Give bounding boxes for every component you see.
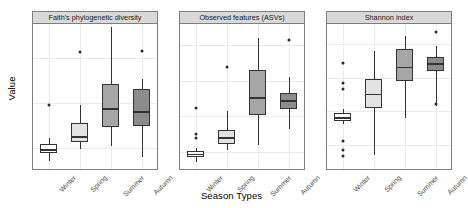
- y-axis-tick-mark: [179, 152, 180, 153]
- x-axis-tick-mark: [49, 169, 50, 170]
- x-axis-tick-mark: [436, 169, 437, 170]
- whisker: [436, 46, 437, 106]
- plot-area: 102030: [32, 24, 158, 170]
- x-axis-tick-mark: [196, 169, 197, 170]
- y-axis-tick-mark: [326, 77, 327, 78]
- facet-strip-label: Faith's phylogenetic diversity: [33, 12, 157, 23]
- facet-strip-faiths-pd: Faith's phylogenetic diversity: [32, 11, 158, 24]
- gridline: [33, 58, 157, 59]
- median-line: [396, 67, 413, 69]
- outlier-point: [194, 137, 197, 140]
- gridline: [180, 116, 304, 117]
- median-line: [40, 149, 57, 151]
- x-axis-tick-mark: [405, 169, 406, 170]
- outlier-point: [341, 81, 344, 84]
- median-line: [71, 136, 88, 138]
- y-axis-tick-mark: [32, 102, 33, 103]
- boxplot-box: [102, 84, 119, 127]
- x-axis-tick-mark: [289, 169, 290, 170]
- y-axis-title: Value: [6, 59, 17, 119]
- outlier-point: [78, 51, 81, 54]
- outlier-point: [434, 31, 437, 34]
- median-line: [187, 154, 204, 156]
- gridline: [327, 44, 451, 45]
- gridline: [180, 45, 304, 46]
- x-axis-tick-mark: [111, 169, 112, 170]
- median-line: [102, 108, 119, 110]
- y-axis-tick-mark: [326, 144, 327, 145]
- outlier-point: [140, 50, 143, 53]
- x-axis-title: Season Types: [0, 190, 463, 201]
- median-line: [427, 63, 444, 65]
- outlier-point: [194, 133, 197, 136]
- y-axis-tick-mark: [179, 80, 180, 81]
- plot-area: 100200300400: [179, 24, 305, 170]
- x-axis-tick-mark: [343, 169, 344, 170]
- outlier-point: [341, 148, 344, 151]
- median-line: [334, 117, 351, 119]
- x-axis-tick-mark: [227, 169, 228, 170]
- boxplot-box: [133, 89, 150, 125]
- outlier-point: [47, 103, 50, 106]
- x-axis-tick-mark: [258, 169, 259, 170]
- outlier-point: [341, 140, 344, 143]
- x-axis-tick-mark: [80, 169, 81, 170]
- y-axis-tick-mark: [32, 57, 33, 58]
- outlier-point: [434, 103, 437, 106]
- x-axis-tick-mark: [142, 169, 143, 170]
- outlier-point: [341, 88, 344, 91]
- gridline: [327, 78, 451, 79]
- outlier-point: [225, 65, 228, 68]
- y-axis-tick-mark: [326, 44, 327, 45]
- y-axis-tick-mark: [179, 45, 180, 46]
- outlier-point: [194, 106, 197, 109]
- boxplot-box: [71, 123, 88, 142]
- median-line: [280, 100, 297, 102]
- median-line: [133, 111, 150, 113]
- outlier-point: [341, 155, 344, 158]
- facet-strip-shannon-index: Shannon index: [326, 11, 452, 24]
- facet-strip-label: Observed features (ASVs): [180, 12, 304, 23]
- median-line: [365, 94, 382, 96]
- gridline: [327, 145, 451, 146]
- boxplot-box: [249, 70, 266, 114]
- plot-area: 5678: [326, 24, 452, 170]
- outlier-point: [341, 61, 344, 64]
- outlier-point: [287, 39, 290, 42]
- y-axis-tick-mark: [179, 116, 180, 117]
- facet-strip-label: Shannon index: [327, 12, 451, 23]
- x-axis-tick-mark: [374, 169, 375, 170]
- y-axis-tick-mark: [32, 147, 33, 148]
- y-axis-tick-mark: [326, 111, 327, 112]
- median-line: [249, 97, 266, 99]
- gridline: [180, 81, 304, 82]
- boxplot-box: [396, 49, 413, 81]
- median-line: [218, 137, 235, 139]
- facet-strip-observed-features: Observed features (ASVs): [179, 11, 305, 24]
